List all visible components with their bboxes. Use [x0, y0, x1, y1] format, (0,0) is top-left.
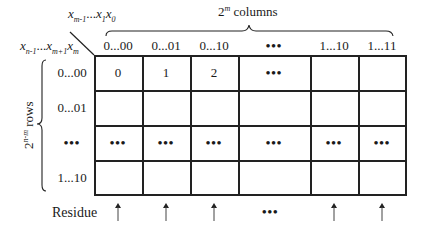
arrow-up-icon	[161, 203, 171, 221]
rows-brace	[37, 60, 46, 191]
rows-count-label: 2n-m rows	[21, 90, 37, 160]
table-cell-ellipsis: •••	[358, 125, 406, 160]
table-cell-ellipsis: •••	[190, 125, 238, 160]
table-cell: 0	[94, 55, 142, 90]
table-cell	[358, 55, 406, 90]
column-header: 0...00	[94, 38, 142, 54]
table-cell	[310, 55, 358, 90]
column-header: 1...10	[310, 38, 358, 54]
residue-label: Residue	[52, 205, 97, 221]
arrow-up-icon	[209, 203, 219, 221]
columns-brace	[106, 25, 393, 36]
columns-count-label: 2m columns	[218, 4, 278, 20]
arrow-up-icon	[377, 203, 387, 221]
column-header: 0...01	[142, 38, 190, 54]
table-cell-ellipsis: •••	[142, 125, 190, 160]
row-header: 0...01	[52, 100, 92, 116]
arrow-up-icon	[113, 203, 123, 221]
table-cell-ellipsis: •••	[238, 55, 310, 90]
arrow-up-icon	[329, 203, 339, 221]
column-header-ellipsis: •••	[238, 38, 310, 54]
residue-ellipsis: •••	[262, 204, 279, 220]
row-header: 0...00	[52, 65, 92, 81]
row-header-ellipsis: •••	[52, 135, 92, 151]
residue-table-grid: 0 1 2 ••• ••• ••• ••• ••• ••• •••	[94, 55, 406, 195]
column-header: 0...10	[190, 38, 238, 54]
table-cell-ellipsis: •••	[94, 125, 142, 160]
table-cell: 1	[142, 55, 190, 90]
table-cell-ellipsis: •••	[310, 125, 358, 160]
table-cell-ellipsis: •••	[238, 125, 310, 160]
column-header: 1...11	[358, 38, 406, 54]
table-cell: 2	[190, 55, 238, 90]
row-header: 1...10	[52, 170, 92, 186]
